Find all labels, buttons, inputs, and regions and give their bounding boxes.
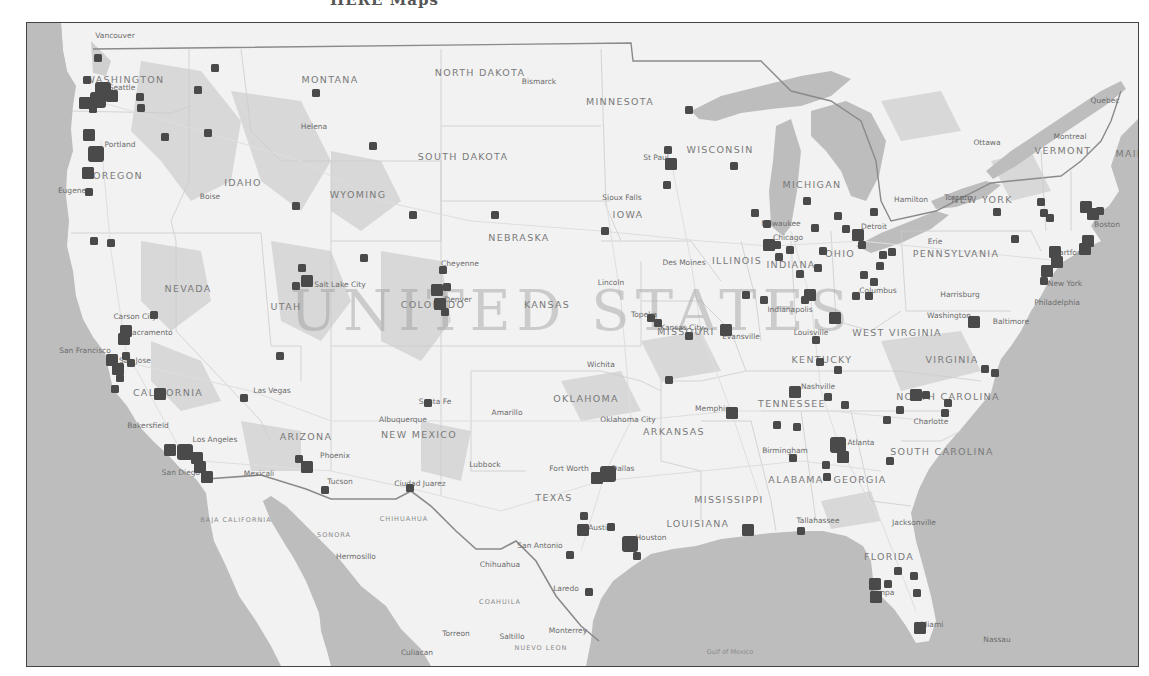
location-marker[interactable]: [580, 512, 588, 520]
location-marker[interactable]: [1041, 265, 1053, 277]
location-marker[interactable]: [796, 270, 804, 278]
location-marker[interactable]: [1046, 214, 1054, 222]
location-marker[interactable]: [870, 278, 878, 286]
location-marker[interactable]: [663, 181, 671, 189]
location-marker[interactable]: [837, 451, 849, 463]
location-marker[interactable]: [860, 271, 868, 279]
location-marker[interactable]: [981, 365, 989, 373]
location-marker[interactable]: [301, 275, 313, 287]
location-marker[interactable]: [870, 591, 882, 603]
location-marker[interactable]: [834, 366, 842, 374]
location-marker[interactable]: [869, 578, 881, 590]
location-marker[interactable]: [211, 64, 219, 72]
location-marker[interactable]: [858, 241, 866, 249]
location-marker[interactable]: [1037, 198, 1045, 206]
location-marker[interactable]: [801, 296, 809, 304]
location-marker[interactable]: [993, 208, 1001, 216]
location-marker[interactable]: [865, 292, 873, 300]
location-marker[interactable]: [842, 225, 850, 233]
location-marker[interactable]: [301, 461, 313, 473]
location-marker[interactable]: [82, 167, 94, 179]
location-marker[interactable]: [154, 388, 166, 400]
location-marker[interactable]: [786, 246, 794, 254]
location-marker[interactable]: [83, 129, 95, 141]
location-marker[interactable]: [194, 86, 202, 94]
location-marker[interactable]: [751, 209, 759, 217]
location-marker[interactable]: [812, 336, 820, 344]
location-marker[interactable]: [409, 211, 417, 219]
location-marker[interactable]: [914, 622, 926, 634]
location-marker[interactable]: [577, 524, 589, 536]
location-marker[interactable]: [106, 90, 118, 102]
location-marker[interactable]: [742, 524, 754, 536]
location-marker[interactable]: [870, 208, 878, 216]
location-marker[interactable]: [922, 391, 930, 399]
location-marker[interactable]: [824, 393, 832, 401]
location-marker[interactable]: [431, 284, 443, 296]
location-marker[interactable]: [941, 409, 949, 417]
location-marker[interactable]: [161, 133, 169, 141]
location-marker[interactable]: [601, 227, 609, 235]
location-marker[interactable]: [852, 292, 860, 300]
location-marker[interactable]: [292, 282, 300, 290]
location-marker[interactable]: [834, 212, 842, 220]
location-marker[interactable]: [685, 106, 693, 114]
location-marker[interactable]: [1040, 277, 1048, 285]
location-marker[interactable]: [107, 239, 115, 247]
location-marker[interactable]: [321, 486, 329, 494]
location-marker[interactable]: [607, 523, 615, 531]
location-marker[interactable]: [118, 333, 130, 345]
location-marker[interactable]: [888, 248, 896, 256]
location-marker[interactable]: [585, 588, 593, 596]
location-marker[interactable]: [298, 264, 306, 272]
location-marker[interactable]: [136, 93, 144, 101]
location-marker[interactable]: [775, 253, 783, 261]
location-marker[interactable]: [424, 399, 432, 407]
location-marker[interactable]: [685, 332, 693, 340]
location-marker[interactable]: [1079, 243, 1091, 255]
location-marker[interactable]: [633, 552, 641, 560]
location-marker[interactable]: [90, 237, 98, 245]
location-marker[interactable]: [276, 352, 284, 360]
location-marker[interactable]: [910, 572, 918, 580]
location-marker[interactable]: [811, 224, 819, 232]
location-marker[interactable]: [896, 406, 904, 414]
location-marker[interactable]: [150, 311, 158, 319]
location-marker[interactable]: [1011, 235, 1019, 243]
location-marker[interactable]: [819, 247, 827, 255]
location-marker[interactable]: [814, 264, 822, 272]
location-marker[interactable]: [803, 197, 811, 205]
location-marker[interactable]: [822, 461, 830, 469]
location-marker[interactable]: [127, 359, 135, 367]
location-marker[interactable]: [441, 308, 449, 316]
location-marker[interactable]: [944, 399, 952, 407]
location-marker[interactable]: [116, 374, 124, 382]
location-marker[interactable]: [884, 580, 892, 588]
location-marker[interactable]: [665, 158, 677, 170]
location-marker[interactable]: [841, 401, 849, 409]
location-marker[interactable]: [85, 188, 93, 196]
location-marker[interactable]: [111, 385, 119, 393]
map-viewport[interactable]: UNITED STATES WASHINGTONMONTANANORTH DAK…: [26, 22, 1139, 667]
location-marker[interactable]: [773, 421, 781, 429]
location-marker[interactable]: [201, 471, 213, 483]
location-marker[interactable]: [913, 589, 921, 597]
location-marker[interactable]: [816, 358, 824, 366]
location-marker[interactable]: [763, 220, 771, 228]
location-marker[interactable]: [665, 376, 673, 384]
location-marker[interactable]: [137, 104, 145, 112]
location-marker[interactable]: [664, 146, 672, 154]
location-marker[interactable]: [491, 211, 499, 219]
location-marker[interactable]: [369, 142, 377, 150]
location-marker[interactable]: [83, 76, 91, 84]
location-marker[interactable]: [654, 319, 662, 327]
location-marker[interactable]: [968, 316, 980, 328]
location-marker[interactable]: [94, 54, 102, 62]
location-marker[interactable]: [360, 254, 368, 262]
location-marker[interactable]: [730, 162, 738, 170]
location-marker[interactable]: [829, 312, 841, 324]
location-marker[interactable]: [910, 389, 922, 401]
location-marker[interactable]: [292, 202, 300, 210]
location-marker[interactable]: [797, 527, 805, 535]
location-marker[interactable]: [406, 484, 414, 492]
